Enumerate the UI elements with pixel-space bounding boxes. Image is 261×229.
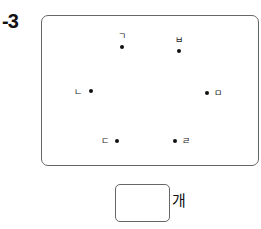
point-label: ㄴ <box>74 88 82 97</box>
point-dot <box>173 139 177 143</box>
point-dot <box>120 45 124 49</box>
point-label: ㄹ <box>182 137 190 146</box>
problem-number: -3 <box>2 10 18 33</box>
point-dot <box>205 91 209 95</box>
point-label: ㄷ <box>101 137 109 146</box>
point-dot <box>89 89 93 93</box>
point-dot <box>177 49 181 53</box>
answer-unit: 개 <box>172 193 186 209</box>
point-label: ㅂ <box>175 36 183 45</box>
point-label: ㅁ <box>214 89 222 98</box>
point-label: ㄱ <box>118 32 126 41</box>
point-dot <box>115 139 119 143</box>
answer-input-box[interactable] <box>115 184 170 222</box>
